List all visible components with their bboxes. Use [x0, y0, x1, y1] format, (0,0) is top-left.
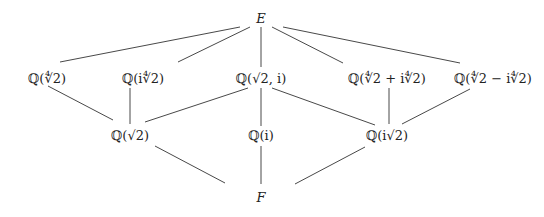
- node-q4r2: ℚ(∜2): [28, 72, 66, 85]
- lattice-edge: [283, 27, 460, 63]
- lattice-edge: [48, 86, 113, 120]
- lattice-edge: [155, 146, 225, 183]
- node-F: F: [256, 191, 265, 204]
- lattice-edge: [272, 88, 375, 125]
- node-qr2: ℚ(√2): [111, 129, 149, 142]
- node-qir2: ℚ(i√2): [366, 129, 408, 142]
- node-qi4r2: ℚ(i∜2): [122, 72, 164, 85]
- lattice-edge: [145, 88, 248, 122]
- lattice-edge: [295, 147, 365, 184]
- node-E: E: [256, 12, 266, 25]
- node-qi: ℚ(i): [248, 129, 274, 142]
- lattice-edges: [0, 0, 544, 217]
- node-qr2i: ℚ(√2, i): [236, 72, 286, 85]
- node-qdiff: ℚ(∜2 − i∜2): [454, 72, 532, 85]
- lattice-edge: [402, 89, 470, 124]
- node-qsum: ℚ(∜2 + i∜2): [348, 72, 426, 85]
